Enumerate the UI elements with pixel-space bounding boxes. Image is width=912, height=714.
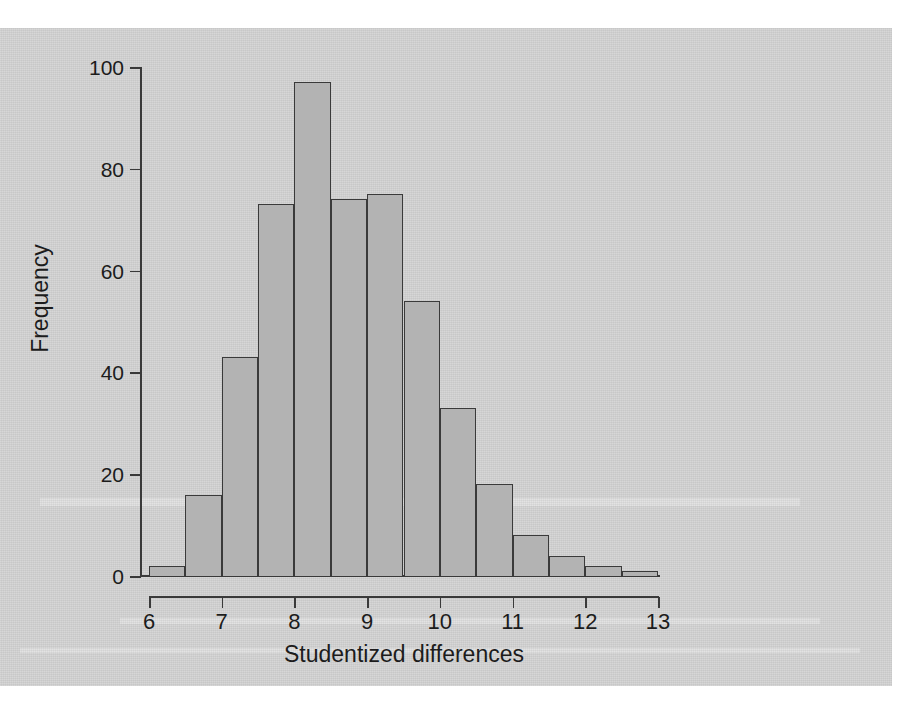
- x-axis-tick-label: 8: [269, 611, 319, 633]
- histogram-bar: [367, 194, 403, 576]
- histogram-bars: [149, 67, 658, 576]
- x-axis-tick-label: 12: [560, 611, 610, 633]
- y-axis-line: [140, 67, 142, 577]
- y-axis-tick: [130, 169, 141, 171]
- y-axis-title: Frequency: [27, 199, 54, 399]
- x-axis-tick-label: 13: [633, 611, 683, 633]
- y-axis-tick-labels: 020406080100: [58, 0, 124, 714]
- y-axis-tick-label: 100: [64, 57, 124, 78]
- histogram-bar: [585, 566, 621, 576]
- y-axis-tick-label: 40: [64, 362, 124, 383]
- x-axis-tick: [513, 597, 515, 608]
- y-axis-tick: [130, 67, 141, 69]
- histogram-bar: [222, 357, 258, 576]
- y-axis-tick: [130, 271, 141, 273]
- histogram-bar: [404, 301, 440, 576]
- x-axis-tick: [294, 597, 296, 608]
- histogram-bar: [258, 204, 294, 576]
- screenshot-page: 020406080100 678910111213 Studentized di…: [0, 0, 912, 714]
- x-axis-title: Studentized differences: [149, 641, 659, 668]
- y-axis-tick-label: 0: [64, 566, 124, 587]
- histogram-bar: [331, 199, 367, 576]
- histogram-bar: [476, 484, 512, 576]
- y-axis-tick: [130, 372, 141, 374]
- y-axis-tick: [130, 576, 141, 578]
- x-axis-tick-label: 7: [197, 611, 247, 633]
- y-axis-tick-label: 80: [64, 159, 124, 180]
- x-axis-tick-label: 9: [342, 611, 392, 633]
- x-axis-tick-label: 10: [415, 611, 465, 633]
- histogram-bar: [622, 571, 658, 576]
- histogram-bar: [513, 535, 549, 576]
- x-axis-tick: [658, 597, 660, 608]
- histogram-bar: [294, 82, 330, 576]
- x-axis-tick: [440, 597, 442, 608]
- histogram-bar: [549, 556, 585, 576]
- histogram-plot: 020406080100 678910111213 Studentized di…: [0, 0, 912, 714]
- x-axis-tick: [149, 597, 151, 608]
- histogram-bar: [149, 566, 185, 576]
- histogram-bar: [185, 495, 221, 576]
- x-axis-tick: [585, 597, 587, 608]
- y-axis-tick: [130, 474, 141, 476]
- histogram-bar: [440, 408, 476, 576]
- x-axis-tick: [367, 597, 369, 608]
- x-axis-tick-label: 11: [488, 611, 538, 633]
- x-axis-tick: [222, 597, 224, 608]
- y-axis-tick-label: 20: [64, 464, 124, 485]
- x-axis-line: [149, 596, 659, 598]
- y-axis-tick-label: 60: [64, 261, 124, 282]
- x-axis-tick-label: 6: [124, 611, 174, 633]
